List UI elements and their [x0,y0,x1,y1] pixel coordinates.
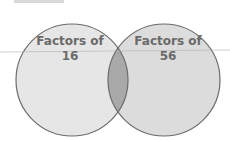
cropped-text [14,0,64,3]
set-left-label-line2: 16 [62,49,79,63]
set-right-label-line2: 56 [160,49,177,63]
set-left-label-line1: Factors of [36,34,104,48]
venn-diagram: Factors of 16 Factors of 56 [0,0,230,141]
set-right-label-line1: Factors of [134,34,202,48]
